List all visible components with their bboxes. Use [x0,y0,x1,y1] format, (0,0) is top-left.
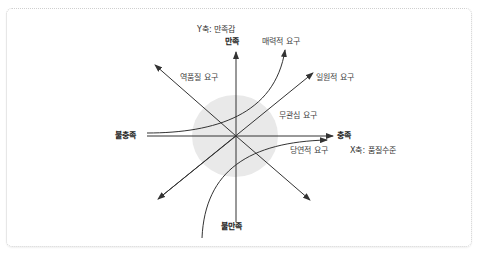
must-be-label: 당연적 요구 [290,146,328,156]
x-axis-title: X축: 품질수준 [350,146,396,156]
x-axis-right-label: 충족 [337,131,351,141]
y-axis-top-label: 만족 [225,37,239,47]
one-dimensional-label: 일원적 요구 [316,73,354,83]
attractive-label: 매력적 요구 [262,37,300,47]
y-axis-bottom-label: 불만족 [221,222,242,232]
kano-diagram [0,0,481,260]
indifferent-label: 무관심 요구 [279,111,317,121]
y-axis-title: Y축: 만족감 [197,25,235,35]
reverse-quality-label: 역품질 요구 [180,73,218,83]
x-axis-left-label: 불충족 [115,131,136,141]
